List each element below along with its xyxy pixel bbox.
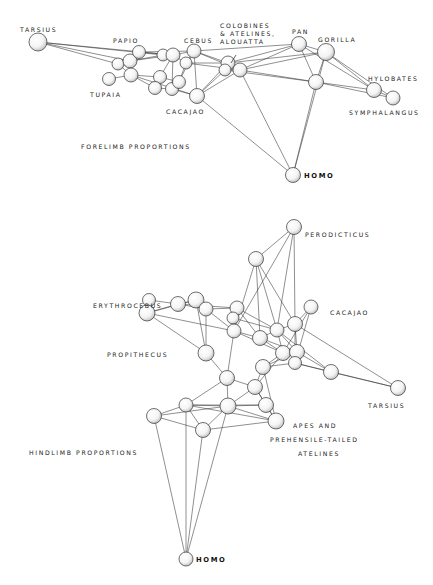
label-erythrocebus: ERYTHROCEBUS [93,302,162,310]
node-homo [286,168,301,183]
node-k6 [288,317,303,332]
node-cebus [187,44,201,58]
node-k4 [253,331,268,346]
node-gorilla [318,44,335,61]
node-hylobates [367,83,382,98]
label-cacajao: CACAJAO [330,309,369,317]
edge [186,430,203,559]
label-forelimb-proportions: FORELIMB PROPORTIONS [81,143,191,151]
edge [277,227,294,330]
label-apes-and: APES AND [293,422,337,430]
label-prehensile-tailed: PREHENSILE-TAILED [270,436,359,444]
node-k7 [276,346,291,361]
label-pan: PAN [292,28,309,36]
node-h3 [147,409,162,424]
label-cebus: CEBUS [184,37,213,45]
node-k14 [324,365,339,380]
edge [154,416,186,559]
label-colobines-atelines-alouatta: COLOBINES & ATELINES, ALOUATTA [220,22,276,46]
edge [294,227,295,324]
label-perodicticus: PERODICTICUS [305,231,370,239]
node-cacajao [190,89,205,104]
label-hindlimb-proportions: HINDLIMB PROPORTIONS [29,449,138,457]
label-gorilla: GORILLA [318,36,356,44]
node-h4 [196,423,211,438]
node-col2 [219,64,231,76]
node-k12 [248,380,263,395]
diagram-canvas: TARSIUSPAPIOCEBUSCOLOBINES & ATELINES, A… [0,0,433,585]
label-homo: HOMO [304,172,334,180]
node-n2 [249,252,264,267]
label-cacajao: CACAJAO [166,108,205,116]
node-mid [309,75,324,90]
node-k10 [289,357,302,370]
edge [293,82,316,175]
node-p3 [124,68,138,82]
node-k5 [270,323,284,337]
node-c2 [166,48,180,62]
label-tarsius: TARSIUS [368,402,405,410]
node-perodicticus [287,220,302,235]
label-tarsius: TARSIUS [20,26,57,34]
node-col3 [233,63,247,77]
node-m4 [173,76,186,89]
node-e3 [171,297,186,312]
node-apes [268,413,284,429]
node-m2 [149,82,162,95]
forelimb-edges [38,42,393,175]
edge [240,44,299,70]
hindlimb-edges [147,227,398,559]
edge [38,42,118,64]
edge [240,70,293,175]
node-pan [292,37,307,52]
node-tupaia [103,73,116,86]
network-graphs [0,0,433,585]
node-h1 [179,398,193,412]
node-h2 [220,398,236,414]
node-c3 [180,57,192,69]
label-propithecus: PROPITHECUS [107,351,168,359]
node-p1 [112,58,124,70]
label-homo: HOMO [196,556,226,564]
label-hylobates: HYLOBATES [368,75,419,83]
node-k13 [259,398,274,413]
edge [203,421,276,430]
node-tarsius [391,381,406,396]
node-papio [133,46,146,59]
node-cacajao [304,300,318,314]
edge [256,259,295,324]
node-e2 [199,302,213,316]
node-propithecus [198,345,214,361]
label-tupaia: TUPAIA [90,91,122,99]
node-k2 [227,312,239,324]
hindlimb-nodes [139,220,406,567]
node-k11 [220,371,235,386]
node-symphalangus [386,91,400,105]
forelimb-nodes [29,33,400,183]
label-symphalangus: SYMPHALANGUS [349,109,420,117]
node-tarsius [29,33,47,51]
edge [240,52,326,70]
edge [293,52,326,175]
edge [240,70,316,82]
node-k9 [256,360,271,375]
node-k3 [227,324,241,338]
edge [197,96,293,175]
edge [331,372,398,388]
label-papio: PAPIO [113,37,139,45]
label-atelines: ATELINES [298,450,340,458]
node-homo [179,552,193,566]
